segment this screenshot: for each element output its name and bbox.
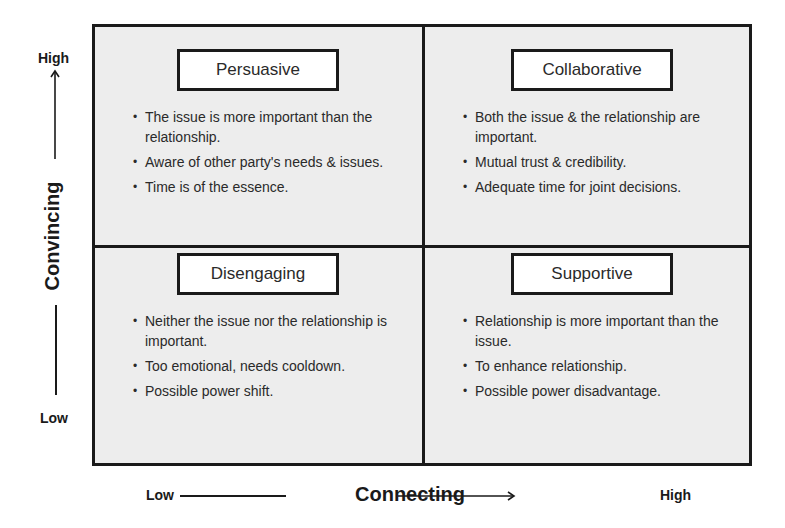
bullet-item: Too emotional, needs cooldown. bbox=[133, 356, 413, 376]
bullet-item: Adequate time for joint decisions. bbox=[463, 177, 743, 197]
bullet-item: Mutual trust & credibility. bbox=[463, 152, 743, 172]
bullet-list: Neither the issue nor the relationship i… bbox=[133, 311, 413, 406]
quadrant-collaborative: Collaborative Both the issue & the relat… bbox=[425, 27, 752, 245]
x-axis-line bbox=[180, 495, 286, 497]
y-axis-high-label: High bbox=[38, 50, 69, 66]
y-axis-title: Convincing bbox=[41, 182, 64, 291]
y-axis-low-label: Low bbox=[40, 410, 68, 426]
quadrant-label: Disengaging bbox=[177, 253, 339, 295]
bullet-list: Relationship is more important than the … bbox=[463, 311, 743, 406]
bullet-item: Possible power shift. bbox=[133, 381, 413, 401]
bullet-list: The issue is more important than the rel… bbox=[133, 107, 413, 202]
quadrant-persuasive: Persuasive The issue is more important t… bbox=[95, 27, 422, 245]
x-axis-high-label: High bbox=[660, 487, 691, 503]
x-axis-low-label: Low bbox=[146, 487, 174, 503]
y-axis-arrow-up-icon bbox=[50, 69, 60, 159]
bullet-item: Both the issue & the relationship are im… bbox=[463, 107, 743, 147]
bullet-item: Relationship is more important than the … bbox=[463, 311, 743, 351]
bullet-item: Time is of the essence. bbox=[133, 177, 413, 197]
bullet-item: Aware of other party's needs & issues. bbox=[133, 152, 413, 172]
quadrant-label: Supportive bbox=[511, 253, 673, 295]
bullet-item: The issue is more important than the rel… bbox=[133, 107, 413, 147]
quadrant-label: Collaborative bbox=[511, 49, 673, 91]
y-axis-line bbox=[55, 305, 57, 395]
bullet-item: To enhance relationship. bbox=[463, 356, 743, 376]
bullet-list: Both the issue & the relationship are im… bbox=[463, 107, 743, 202]
quadrant-matrix: Persuasive The issue is more important t… bbox=[92, 24, 752, 466]
quadrant-disengaging: Disengaging Neither the issue nor the re… bbox=[95, 248, 422, 466]
quadrant-supportive: Supportive Relationship is more importan… bbox=[425, 248, 752, 466]
bullet-item: Neither the issue nor the relationship i… bbox=[133, 311, 413, 351]
quadrant-label: Persuasive bbox=[177, 49, 339, 91]
x-axis-arrow-right-icon bbox=[398, 490, 516, 502]
bullet-item: Possible power disadvantage. bbox=[463, 381, 743, 401]
